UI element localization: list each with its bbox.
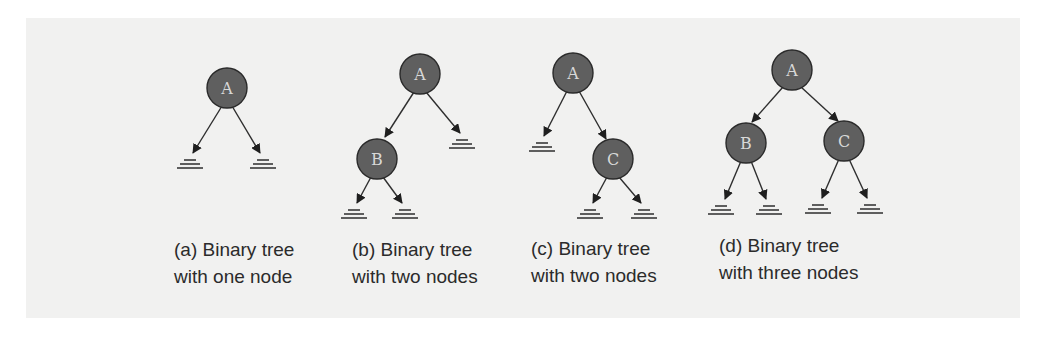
tree-node-c: C [824,121,864,161]
node-label: B [740,134,752,153]
null-link-icon [449,140,475,148]
null-link-icon [756,206,782,214]
tree-node-a: A [207,68,247,108]
null-link-icon [631,210,657,218]
null-link-icon [177,160,203,168]
node-label: A [220,79,233,98]
edge-c-left [822,159,839,198]
caption-line-1: (d) Binary tree [719,232,858,259]
edge-c-left [593,177,607,203]
edge-a-left [193,106,222,153]
tree-node-a: A [772,50,812,90]
null-link-icon [708,206,734,214]
edge-a-left [752,87,783,122]
tree-c: A C [529,53,657,218]
node-label: A [785,61,798,80]
node-label: A [413,65,426,84]
caption-d: (d) Binary tree with three nodes [719,232,858,286]
caption-line-1: (b) Binary tree [352,236,478,263]
caption-a: (a) Binary tree with one node [174,236,294,290]
null-link-icon [341,210,367,218]
caption-line-1: (c) Binary tree [531,235,657,262]
edge-b-left [357,177,371,203]
caption-line-2: with one node [174,263,294,290]
caption-c: (c) Binary tree with two nodes [531,235,657,289]
caption-line-1: (a) Binary tree [174,236,294,263]
caption-line-2: with two nodes [531,262,657,289]
caption-b: (b) Binary tree with two nodes [352,236,478,290]
tree-a: A [177,68,276,168]
null-link-icon [250,160,276,168]
caption-line-2: with three nodes [719,259,858,286]
null-link-icon [857,205,883,213]
null-link-icon [529,143,555,151]
tree-d: A B C [708,50,883,214]
binary-trees-diagram: A A B [0,0,1051,338]
null-link-icon [805,205,831,213]
node-label: C [607,150,619,169]
tree-node-a: A [553,53,593,93]
tree-b: A B [341,54,475,218]
edge-a-right [579,91,606,139]
edge-b-right [383,177,402,203]
caption-line-2: with two nodes [352,263,478,290]
edge-b-right [751,161,766,199]
null-link-icon [392,210,418,218]
edge-a-right [801,87,838,121]
tree-node-b: B [357,139,397,179]
edge-a-left [385,92,414,137]
node-label: C [838,132,850,151]
edge-b-left [725,161,741,199]
edge-c-right [619,177,641,203]
edge-c-right [849,159,867,198]
null-link-icon [577,210,603,218]
tree-node-b: B [726,123,766,163]
tree-node-a: A [400,54,440,94]
edge-a-right [426,92,460,133]
edge-a-right [232,106,260,153]
tree-node-c: C [593,139,633,179]
edge-a-left [544,91,567,136]
node-label: A [566,64,579,83]
node-label: B [371,150,383,169]
